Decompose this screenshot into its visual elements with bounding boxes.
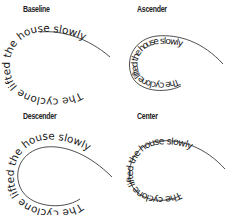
text-path-illustration-baseline: The cyclone lifted the house slowly [0, 0, 113, 107]
text-path-illustration-center: The cyclone lifted the house slowly [113, 107, 227, 215]
path-line [18, 147, 112, 206]
text-path-illustration-descender: The cyclone lifted the house slowly [0, 107, 113, 215]
panel-center: Center The cyclone lifted the house slow… [113, 107, 226, 214]
panel-baseline: Baseline The cyclone lifted the house sl… [0, 0, 113, 107]
path-text: The cyclone lifted the house slowly [0, 22, 88, 109]
panel-descender: Descender The cyclone lifted the house s… [0, 107, 113, 214]
text-path-illustration-ascender: The cyclone lifted the house slowly [113, 0, 227, 107]
path-text: The cyclone lifted the house slowly [124, 135, 195, 206]
panel-ascender: Ascender The cyclone lifted the house sl… [113, 0, 226, 107]
path-text: The cyclone lifted the house slowly [129, 36, 185, 91]
path-text: The cyclone lifted the house slowly [4, 130, 94, 215]
